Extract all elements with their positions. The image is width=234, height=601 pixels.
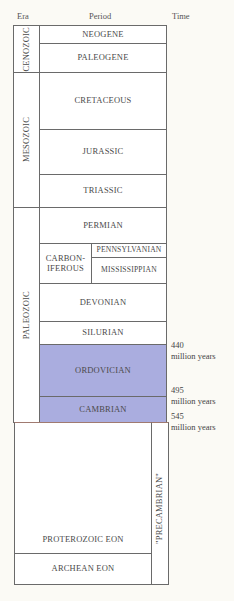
era-label: CENOZOIC (22, 27, 32, 72)
period-label: NEOGENE (82, 30, 124, 40)
era-header: Era (17, 11, 29, 21)
period-label: CRETACEOUS (74, 96, 131, 106)
subperiod-label: PENNSYLVANIAN (96, 246, 161, 255)
period-label: PALEOGENE (77, 53, 128, 63)
time-value: 545 (171, 411, 216, 422)
period-jurassic: JURASSIC (39, 129, 167, 175)
period-carboniferous: CARBON- IFEROUS (39, 243, 92, 284)
time-marker-545: 545 million years (171, 411, 216, 433)
era-cenozoic: CENOZOIC (13, 25, 40, 73)
period-label: JURASSIC (83, 147, 124, 157)
period-label: PERMIAN (83, 221, 123, 231)
period-permian: PERMIAN (39, 207, 167, 244)
time-value: 440 (171, 340, 216, 351)
time-unit: million years (171, 351, 216, 362)
time-marker-495: 495 million years (171, 385, 216, 407)
period-label: TRIASSIC (83, 186, 122, 196)
period-paleogene: PALEOGENE (39, 43, 167, 73)
time-marker-440: 440 million years (171, 340, 216, 362)
eon-label: PROTEROZOIC EON (42, 535, 123, 545)
era-label: MESOZOIC (22, 117, 32, 162)
eon-label: ARCHEAN EON (52, 564, 115, 574)
period-label: SILURIAN (82, 328, 123, 338)
period-cretaceous: CRETACEOUS (39, 72, 167, 130)
period-ordovician: ORDOVICIAN (39, 344, 167, 397)
period-silurian: SILURIAN (39, 321, 167, 345)
era-mesozoic: MESOZOIC (13, 72, 40, 208)
era-label: PALEOZOIC (22, 291, 32, 339)
time-header: Time (172, 11, 190, 21)
eon-archean: ARCHEAN EON (14, 553, 152, 585)
subperiod-label: MISSISSIPPIAN (101, 266, 157, 275)
period-devonian: DEVONIAN (39, 283, 167, 322)
period-label: CARBON- IFEROUS (46, 254, 86, 274)
eon-proterozoic: PROTEROZOIC EON (14, 422, 152, 554)
period-triassic: TRIASSIC (39, 174, 167, 208)
time-unit: million years (171, 422, 216, 433)
era-paleozoic: PALEOZOIC (13, 207, 40, 423)
period-cambrian: CAMBRIAN (39, 396, 167, 423)
precambrian-label: "PRECAMBRIAN" (155, 473, 165, 544)
subperiod-mississippian: MISSISSIPPIAN (91, 257, 167, 284)
period-neogene: NEOGENE (39, 25, 167, 44)
time-unit: million years (171, 396, 216, 407)
period-label: CAMBRIAN (79, 405, 126, 415)
subperiod-pennsylvanian: PENNSYLVANIAN (91, 243, 167, 258)
period-header: Period (89, 11, 111, 21)
period-label: ORDOVICIAN (75, 366, 131, 376)
period-label: DEVONIAN (80, 298, 126, 308)
time-value: 495 (171, 385, 216, 396)
precambrian-bracket: "PRECAMBRIAN" (151, 422, 169, 585)
